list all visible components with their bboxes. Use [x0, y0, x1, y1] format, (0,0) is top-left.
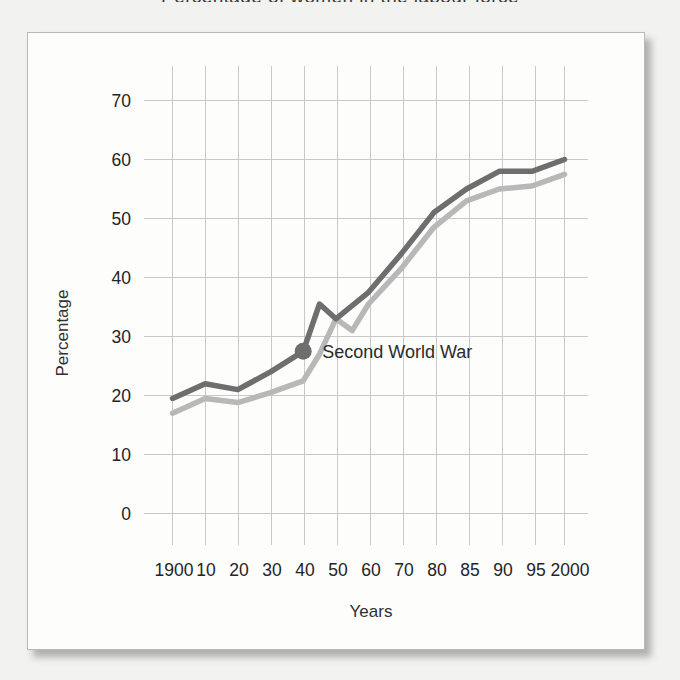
second-world-war-label: Second World War [322, 342, 472, 362]
series-dark-line [173, 160, 565, 399]
x-tick-60: 60 [361, 560, 381, 580]
chart-card: 70 60 50 40 30 20 10 0 Percentage Second… [27, 32, 645, 650]
x-tick-95: 95 [526, 560, 545, 580]
x-tick-80: 80 [427, 560, 447, 580]
x-tick-70: 70 [394, 560, 414, 580]
x-tick-2000: 2000 [551, 560, 590, 580]
x-tick-90: 90 [493, 560, 513, 580]
y-tick-20: 20 [112, 386, 132, 406]
x-tick-50: 50 [328, 560, 348, 580]
x-tick-40: 40 [295, 560, 315, 580]
y-tick-10: 10 [112, 445, 132, 465]
x-tick-1900: 1900 [155, 560, 194, 580]
line-chart-plot: 70 60 50 40 30 20 10 0 Percentage Second… [28, 33, 646, 651]
x-axis-tick-labels: 1900 10 20 30 40 50 60 70 80 85 90 95 20… [155, 560, 590, 580]
y-tick-60: 60 [112, 150, 132, 170]
y-axis-tick-labels: 70 60 50 40 30 20 10 0 [112, 91, 132, 524]
y-tick-30: 30 [112, 327, 132, 347]
y-tick-0: 0 [121, 504, 131, 524]
y-tick-50: 50 [112, 209, 132, 229]
x-axis-title: Years [350, 602, 393, 621]
y-axis-title: Percentage [53, 290, 72, 377]
x-tick-10: 10 [196, 560, 216, 580]
x-tick-20: 20 [229, 560, 249, 580]
x-tick-30: 30 [262, 560, 282, 580]
second-world-war-marker [295, 343, 312, 360]
y-tick-70: 70 [112, 91, 132, 111]
chart-title-fragment: Percentage of women in the labour force [0, 0, 680, 2]
y-tick-40: 40 [112, 268, 132, 288]
x-tick-85: 85 [460, 560, 479, 580]
